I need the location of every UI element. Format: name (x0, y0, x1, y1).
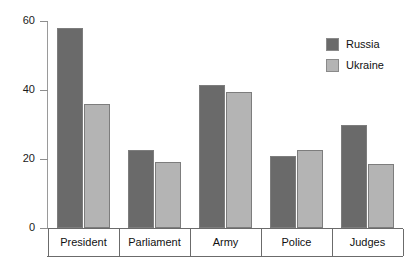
legend-item: Russia (326, 38, 384, 51)
bar (57, 28, 83, 228)
bar (270, 156, 296, 228)
legend-swatch-icon (326, 38, 339, 51)
x-axis-label: Judges (332, 235, 403, 249)
y-tick: 20 (40, 159, 48, 160)
bar (226, 92, 252, 228)
y-tick: 60 (40, 21, 48, 22)
bar (84, 104, 110, 228)
bar (128, 150, 154, 228)
y-tick-label: 60 (23, 14, 35, 27)
x-axis-line (47, 228, 403, 229)
bar-chart: 6040200 PresidentParliamentArmyPoliceJud… (0, 0, 418, 266)
x-axis-label: Parliament (119, 235, 190, 249)
bar (368, 164, 394, 228)
y-tick-label: 0 (29, 221, 35, 234)
bar-group (270, 21, 323, 228)
y-tick-label: 40 (23, 83, 35, 96)
legend-label: Russia (346, 38, 380, 51)
legend-label: Ukraine (346, 59, 384, 72)
bar (341, 125, 367, 229)
category-separator (403, 229, 404, 256)
bar (199, 85, 225, 228)
bar (297, 150, 323, 228)
bar-group (57, 21, 110, 228)
bar-group (128, 21, 181, 228)
y-tick: 0 (40, 228, 48, 229)
x-axis-label: Army (190, 235, 261, 249)
category-band-line (47, 256, 403, 257)
bar (155, 162, 181, 228)
legend-swatch-icon (326, 59, 339, 72)
legend-item: Ukraine (326, 59, 384, 72)
legend: RussiaUkraine (326, 38, 384, 80)
y-tick-label: 20 (23, 152, 35, 165)
x-axis-label: Police (261, 235, 332, 249)
bar-group (199, 21, 252, 228)
y-tick: 40 (40, 90, 48, 91)
x-axis-label: President (48, 235, 119, 249)
